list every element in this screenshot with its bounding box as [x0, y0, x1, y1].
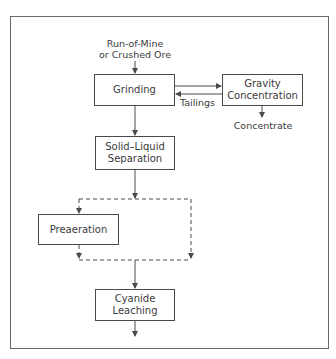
node-solid-liquid-separation: Solid–Liquid Separation [95, 136, 175, 170]
node-grinding: Grinding [94, 74, 175, 106]
node-cyanide-leaching: Cyanide Leaching [95, 289, 175, 321]
input-label: Run-of-Mine or Crushed Ore [95, 38, 175, 60]
node-preaeration: Preaeration [38, 214, 119, 245]
tailings-label: Tailings [180, 97, 215, 108]
node-gravity-concentration: Gravity Concentration [222, 74, 303, 106]
concentrate-label: Concentrate [232, 120, 294, 131]
